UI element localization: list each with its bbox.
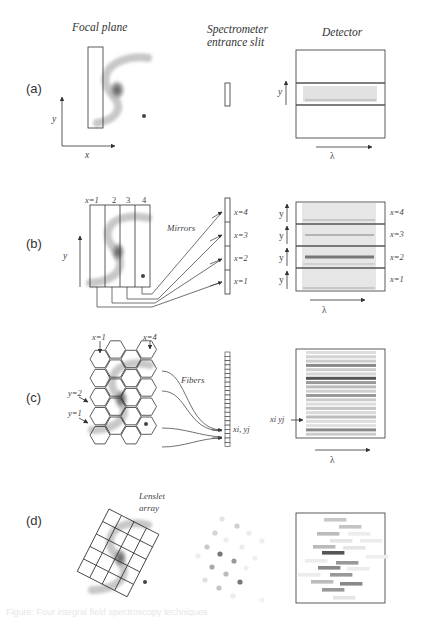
- galaxy-icon: [90, 217, 148, 283]
- strip-label-1: x=1: [85, 196, 99, 205]
- star-icon: [142, 114, 146, 118]
- det-axis-label-lambda: λ: [330, 152, 335, 162]
- det-axis-label-y: y: [278, 88, 282, 98]
- mirrors-label: Mirrors: [167, 224, 195, 233]
- panel-tag-d: (d): [26, 514, 42, 527]
- det-label-x1: x=1: [390, 275, 404, 284]
- figure-caption: Figure: Four integral field spectroscopy…: [6, 608, 208, 617]
- row-label-y2: y=2: [68, 389, 82, 398]
- slit-label-x3: x=3: [234, 231, 248, 240]
- strip-label-3: 3: [126, 196, 130, 205]
- col-label-x4: x=4: [143, 333, 157, 342]
- fiber-slit-label: xi, yj: [233, 425, 250, 434]
- panel-a: [62, 47, 385, 147]
- col-label-x1: x=1: [92, 333, 106, 342]
- slit-label-x1: x=1: [234, 277, 248, 286]
- detector-c: [291, 349, 385, 450]
- star-icon: [141, 274, 145, 278]
- det-label-x4: x=4: [390, 208, 404, 217]
- axis-label-x: x: [85, 151, 89, 161]
- axis-label-y: y: [52, 115, 56, 125]
- det-y-label-1: y: [279, 210, 284, 220]
- header-slit-line1: Spectrometer: [207, 24, 268, 36]
- row-label-y1: y=1: [68, 409, 82, 418]
- header-detector: Detector: [322, 27, 362, 39]
- det-y-label-4: y: [279, 276, 284, 286]
- det-pointer-label: xi yj: [270, 415, 284, 424]
- panel-tag-a: (a): [26, 82, 42, 95]
- panel-tag-b: (b): [26, 237, 42, 250]
- diagram-canvas: [0, 0, 429, 622]
- detector-d: [296, 513, 388, 603]
- panel-b: [80, 198, 385, 307]
- pseudo-slit: [225, 198, 230, 294]
- det-lambda-label-c: λ: [330, 456, 335, 466]
- det-label-x2: x=2: [390, 253, 404, 262]
- lenslet-label-2: array: [139, 504, 159, 513]
- lenslet-label-1: Lenslet: [139, 492, 165, 501]
- star-icon: [143, 580, 147, 584]
- slit-label-x2: x=2: [234, 254, 248, 263]
- strip-label-2: 2: [112, 196, 116, 205]
- galaxy-icon: [97, 57, 148, 123]
- mirror-arrows: [210, 212, 222, 286]
- panel-c: [79, 341, 385, 450]
- header-focal-plane: Focal plane: [72, 22, 127, 34]
- entrance-slit: [225, 83, 230, 106]
- det-label-x3: x=3: [390, 230, 404, 239]
- slit-aperture: [88, 47, 103, 128]
- strip-label-4: 4: [142, 196, 146, 205]
- axis-label-y-b: y: [63, 252, 67, 262]
- panel-tag-c: (c): [26, 391, 41, 404]
- det-lambda-label-b: λ: [322, 306, 327, 316]
- star-icon: [144, 422, 148, 426]
- fibers-label: Fibers: [181, 376, 205, 385]
- slit-label-x4: x=4: [234, 208, 248, 217]
- fiber-pseudo-slit: [225, 352, 230, 447]
- header-slit-line2: entrance slit: [207, 37, 264, 49]
- det-y-label-2: y: [279, 232, 284, 242]
- lenslet-spots: [195, 516, 264, 602]
- det-y-label-3: y: [279, 254, 284, 264]
- panel-d: [77, 509, 388, 603]
- detector-b: [287, 202, 385, 300]
